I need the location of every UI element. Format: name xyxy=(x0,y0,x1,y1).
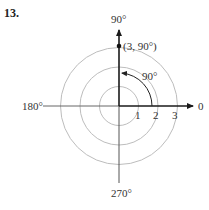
problem-number: 13. xyxy=(4,6,19,20)
arc-angle-label: 90° xyxy=(142,70,157,82)
angle-label-180: 180° xyxy=(22,100,43,112)
radial-tick-1: 1 xyxy=(135,109,141,121)
point-label: (3, 90°) xyxy=(123,40,157,53)
radial-tick-3: 3 xyxy=(172,109,178,121)
angle-label-0: 0 xyxy=(198,100,204,112)
angle-label-270: 270° xyxy=(111,187,132,199)
radial-tick-2: 2 xyxy=(153,109,159,121)
polar-diagram: 13. 90° 180° 0 270° (3, 90°) 90° 1 2 3 xyxy=(0,0,209,210)
point-3-90 xyxy=(117,44,122,49)
angle-label-90: 90° xyxy=(111,13,126,25)
